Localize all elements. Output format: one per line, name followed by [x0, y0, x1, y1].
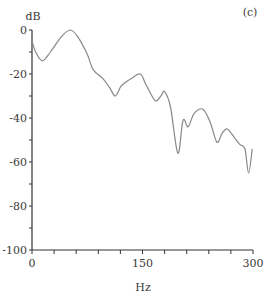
x-axis-label: Hz [135, 281, 151, 294]
y-tick-label: 0 [20, 24, 27, 37]
y-axis: 0-20-40-60-80-100 [2, 24, 32, 257]
frequency-response-chart: 0-20-40-60-80-100 0150300 dB (c) Hz [0, 0, 265, 297]
x-tick-label: 0 [29, 257, 36, 270]
x-tick-label: 300 [243, 257, 264, 270]
y-tick-label: -100 [2, 244, 27, 257]
y-axis-label: dB [25, 10, 40, 23]
x-axis: 0150300 [29, 250, 264, 270]
x-tick-label: 150 [132, 257, 153, 270]
y-tick-label: -80 [9, 200, 27, 213]
panel-label: (c) [243, 6, 258, 19]
y-tick-label: -40 [9, 112, 27, 125]
y-tick-label: -60 [9, 156, 27, 169]
response-curve [32, 30, 252, 173]
y-tick-label: -20 [9, 68, 27, 81]
